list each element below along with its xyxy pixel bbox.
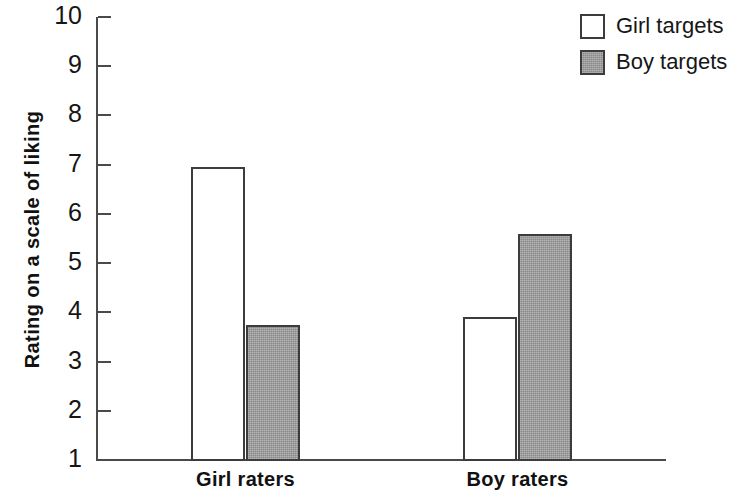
y-axis-tick-label-wrap: 3 (30, 348, 82, 374)
y-axis-tick-label-wrap: 9 (30, 52, 82, 78)
bar-boy-raters-girl-targets (463, 317, 517, 461)
bar-boy-raters-boy-targets (518, 234, 572, 461)
bar-girl-raters-boy-targets (246, 325, 300, 461)
y-axis-tick-label: 5 (30, 249, 82, 274)
bar-girl-raters-girl-targets (191, 167, 245, 461)
x-axis-group-label-girl-raters: Girl raters (136, 468, 356, 491)
y-axis-tick-label: 3 (30, 348, 82, 373)
y-axis-tick (98, 361, 111, 363)
y-axis-tick-label-wrap: 1 (30, 446, 82, 472)
legend: Girl targets Boy targets (580, 8, 727, 80)
y-axis-tick-label-wrap: 2 (30, 397, 82, 423)
y-axis-tick-label-wrap: 8 (30, 101, 82, 127)
y-axis-tick-label: 7 (30, 151, 82, 176)
y-axis-tick (98, 114, 111, 116)
y-axis-tick-label-wrap: 7 (30, 151, 82, 177)
y-axis-tick-label: 4 (30, 298, 82, 323)
y-axis-tick-label: 10 (30, 3, 82, 28)
y-axis-tick-label: 8 (30, 101, 82, 126)
y-axis-tick (98, 410, 111, 412)
y-axis-tick-label-wrap: 10 (30, 3, 82, 29)
y-axis-tick (98, 164, 111, 166)
legend-label-boy-targets: Boy targets (616, 51, 727, 73)
y-axis-tick-label: 9 (30, 52, 82, 77)
bar-chart: Rating on a scale of liking 10987654321 … (0, 0, 734, 498)
y-axis-line (96, 17, 98, 461)
y-axis-tick-label: 1 (30, 446, 82, 471)
legend-swatch-boy-targets (580, 50, 605, 75)
legend-label-girl-targets: Girl targets (616, 15, 724, 37)
y-axis-tick-label: 6 (30, 200, 82, 225)
y-axis-tick (98, 16, 111, 18)
x-axis-group-label-boy-raters: Boy raters (408, 468, 628, 491)
y-axis-tick (98, 65, 111, 67)
legend-item-girl-targets[interactable]: Girl targets (580, 8, 727, 44)
y-axis-tick (98, 262, 111, 264)
y-axis-tick-label-wrap: 4 (30, 298, 82, 324)
y-axis-tick (98, 213, 111, 215)
legend-item-boy-targets[interactable]: Boy targets (580, 44, 727, 80)
y-axis-tick-label-wrap: 5 (30, 249, 82, 275)
y-axis-tick-label: 2 (30, 397, 82, 422)
x-axis-line (96, 459, 666, 461)
legend-swatch-girl-targets (580, 14, 605, 39)
y-axis-tick (98, 311, 111, 313)
y-axis-tick-label-wrap: 6 (30, 200, 82, 226)
